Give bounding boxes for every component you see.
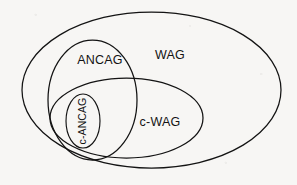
euler-diagram-figure: WAG ANCAG c-WAG c-ANCAG bbox=[0, 0, 297, 185]
set-label-c-wag: c-WAG bbox=[140, 115, 181, 129]
euler-diagram-canvas: WAG ANCAG c-WAG c-ANCAG bbox=[0, 0, 297, 185]
set-label-c-ancag: c-ANCAG bbox=[76, 98, 88, 145]
set-label-ancag: ANCAG bbox=[77, 53, 122, 67]
set-ellipse-wag[interactable] bbox=[22, 12, 281, 168]
set-label-wag: WAG bbox=[155, 48, 185, 62]
